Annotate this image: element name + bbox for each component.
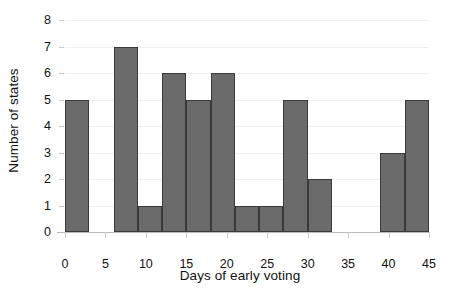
x-tick-mark <box>105 232 106 238</box>
x-tick-mark <box>227 232 228 238</box>
histogram-bar <box>235 206 259 233</box>
x-tick-mark <box>308 232 309 238</box>
histogram-bar <box>308 179 332 232</box>
x-tick-mark <box>267 232 268 238</box>
histogram-bar <box>405 100 429 233</box>
y-axis-title: Number of states <box>0 0 26 240</box>
y-tick-label: 6 <box>29 67 51 79</box>
y-tick-label: 0 <box>29 226 51 238</box>
x-tick-mark <box>186 232 187 238</box>
histogram-bar <box>65 100 89 233</box>
gridline <box>65 20 429 21</box>
y-tick-label: 8 <box>29 14 51 26</box>
x-tick-mark <box>429 232 430 238</box>
histogram-bar <box>162 73 186 232</box>
x-axis-title: Days of early voting <box>26 268 454 283</box>
y-tick-label: 2 <box>29 173 51 185</box>
y-tick-mark <box>59 126 64 127</box>
histogram-bar <box>380 153 404 233</box>
x-tick-mark <box>146 232 147 238</box>
y-tick-mark <box>59 179 64 180</box>
y-tick-label: 3 <box>29 147 51 159</box>
histogram-bar <box>211 73 235 232</box>
y-tick-label: 5 <box>29 94 51 106</box>
y-tick-mark <box>59 47 64 48</box>
x-tick-mark <box>389 232 390 238</box>
x-axis-title-label: Days of early voting <box>180 268 301 283</box>
x-tick-mark <box>348 232 349 238</box>
x-tick-mark <box>65 232 66 238</box>
histogram-chart: Number of states 012345678 0510152025303… <box>0 0 454 301</box>
y-axis-title-label: Number of states <box>6 68 21 172</box>
histogram-bar <box>114 47 138 233</box>
y-tick-mark <box>59 20 64 21</box>
plot-area: 012345678 051015202530354045 <box>65 20 429 232</box>
y-tick-mark <box>59 73 64 74</box>
histogram-bar <box>259 206 283 233</box>
histogram-bar <box>138 206 162 233</box>
y-tick-mark <box>59 153 64 154</box>
y-tick-label: 1 <box>29 200 51 212</box>
y-tick-mark <box>59 206 64 207</box>
y-tick-mark <box>59 100 64 101</box>
histogram-bar <box>186 100 210 233</box>
x-axis-line <box>57 232 429 233</box>
y-tick-label: 7 <box>29 41 51 53</box>
histogram-bar <box>283 100 307 233</box>
y-tick-label: 4 <box>29 120 51 132</box>
